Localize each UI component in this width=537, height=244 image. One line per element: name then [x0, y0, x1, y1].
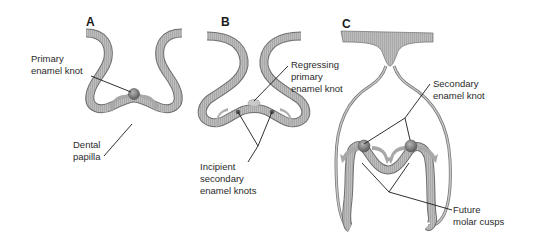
panel-c: C Secondary enamel knot Future molar	[336, 17, 504, 228]
tooth-development-diagram: A Primary enamel knot Dental papilla B	[0, 0, 537, 244]
leader-line	[104, 124, 132, 156]
panel-b: B Regressing primary enamel knot Incipie…	[200, 15, 343, 196]
panel-a-label: A	[86, 15, 95, 29]
leader-line	[364, 118, 405, 144]
label-future-molar-cusps: Future molar cusps	[453, 204, 504, 227]
leader-line	[389, 192, 452, 210]
label-incipient-secondary-enamel-knots: Incipient secondary enamel knots	[200, 161, 257, 196]
panel-c-label: C	[342, 17, 351, 31]
diagram-svg: A Primary enamel knot Dental papilla B	[0, 0, 537, 244]
leader-line	[405, 118, 410, 140]
label-primary-enamel-knot: Primary enamel knot	[31, 53, 83, 76]
panel-b-label: B	[221, 15, 230, 29]
panel-c-secondary-knot-right	[405, 140, 417, 152]
leader-line	[238, 112, 258, 146]
panel-a-primary-knot	[129, 89, 140, 100]
leader-line	[248, 146, 258, 162]
panel-c-dental-lamina	[341, 31, 433, 66]
leader-line	[405, 84, 430, 118]
panel-a: A Primary enamel knot Dental papilla	[31, 15, 182, 162]
label-regressing-primary-enamel-knot: Regressing primary enamel knot	[291, 59, 343, 94]
leader-line	[258, 112, 272, 146]
label-secondary-enamel-knot: Secondary enamel knot	[433, 78, 485, 101]
label-dental-papilla: Dental papilla	[73, 139, 103, 162]
